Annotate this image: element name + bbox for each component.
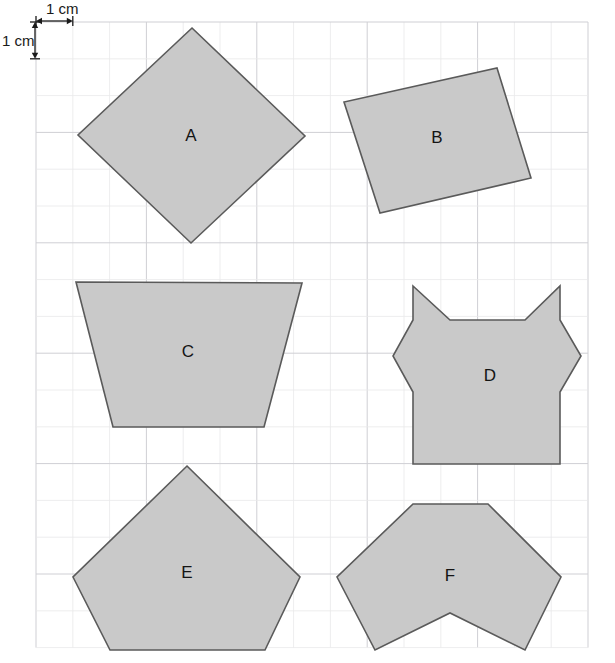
worksheet-canvas: 1 cm1 cm ABCDEF	[0, 0, 615, 663]
scale-label-horizontal: 1 cm	[46, 0, 79, 17]
shape-b-label: B	[431, 128, 442, 147]
shape-f: F	[337, 504, 561, 650]
scale-arrowhead-top	[32, 22, 38, 28]
shape-e-polygon	[73, 466, 300, 650]
scale-label-vertical: 1 cm	[2, 32, 35, 49]
scale-arrowhead-bottom	[32, 53, 38, 59]
shape-d-label: D	[484, 366, 496, 385]
shape-a: A	[78, 28, 305, 243]
scale-annotation: 1 cm1 cm	[2, 0, 79, 59]
shape-e-label: E	[181, 563, 192, 582]
shape-e: E	[73, 466, 300, 650]
scale-arrowhead-left	[36, 18, 42, 24]
shape-c-label: C	[182, 342, 194, 361]
shape-a-label: A	[185, 126, 197, 145]
scale-arrowhead-right	[67, 18, 73, 24]
shape-f-label: F	[445, 566, 455, 585]
shapes-layer: ABCDEF	[73, 28, 581, 650]
worksheet-page: 1 cm1 cm ABCDEF	[0, 0, 615, 663]
shape-d: D	[393, 286, 581, 464]
shape-c: C	[76, 282, 302, 427]
shape-b: B	[344, 68, 531, 213]
